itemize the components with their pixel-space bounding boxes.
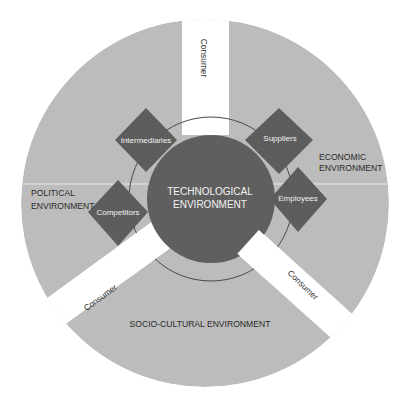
center-label-line2: ENVIRONMENT (173, 199, 247, 210)
political-label-line1: POLITICAL (31, 188, 75, 198)
political-label-line2: ENVIRONMENT (31, 201, 95, 211)
diamond-label-intermediaries: Intermediaries (121, 136, 172, 145)
diamond-label-suppliers: Suppliers (263, 134, 296, 143)
consumer-label-top: Consumer (199, 39, 209, 78)
diamond-label-employees: Employees (278, 194, 318, 203)
economic-label-line1: ECONOMIC (319, 152, 366, 162)
environment-diagram: Intermediaries Suppliers Competitors Emp… (0, 0, 405, 405)
center-label-line1: TECHNOLOGICAL (167, 186, 253, 197)
economic-label-line2: ENVIRONMENT (319, 163, 383, 173)
diamond-label-competitors: Competitors (96, 208, 139, 217)
socio-cultural-label: SOCIO-CULTURAL ENVIRONMENT (130, 319, 272, 329)
